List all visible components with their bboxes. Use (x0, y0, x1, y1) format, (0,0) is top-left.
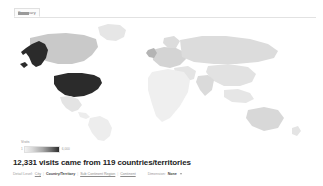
legend-title: Visits (21, 140, 83, 144)
dimension-value[interactable]: None (168, 172, 177, 177)
detail-level-row: Detail Level: City | Country/Territory |… (13, 172, 313, 177)
legend-gradient-bar (24, 146, 60, 153)
detail-level-city[interactable]: City (35, 172, 41, 177)
legend-scale: 1 6,000 (21, 146, 83, 153)
chevron-down-icon[interactable] (180, 173, 182, 175)
summary-section: 12,331 visits came from 119 countries/te… (13, 158, 313, 177)
separator: | (117, 172, 118, 177)
dimension-label: Dimension: (148, 172, 166, 177)
summary-headline: 12,331 visits came from 119 countries/te… (13, 158, 313, 168)
tab-summary[interactable]: Summary (14, 8, 40, 17)
analytics-map-overlay-panel: Summary (0, 0, 323, 186)
world-map[interactable] (12, 20, 312, 142)
tab-strip: Summary (14, 8, 316, 18)
detail-level-country-territory[interactable]: Country/Territory (46, 172, 75, 177)
legend-max-value: 6,000 (62, 147, 70, 151)
detail-level-sub-continent-region[interactable]: Sub Continent Region (80, 172, 115, 177)
separator: | (43, 172, 44, 177)
tab-active-swatch (18, 12, 29, 15)
legend-min-value: 1 (21, 147, 23, 151)
detail-level-continent[interactable]: Continent (120, 172, 135, 177)
detail-level-label: Detail Level: (13, 172, 33, 177)
separator: | (77, 172, 78, 177)
map-legend: Visits 1 6,000 (21, 140, 83, 155)
